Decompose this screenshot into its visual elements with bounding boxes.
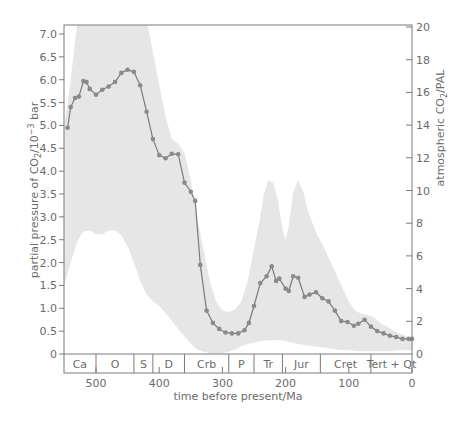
data-point <box>176 152 181 157</box>
data-point <box>204 308 209 313</box>
data-point <box>157 153 162 158</box>
x-tick-label: 100 <box>338 377 359 390</box>
data-point <box>217 327 222 332</box>
data-point <box>291 274 296 279</box>
geologic-period-band: CaOSDCrbPTrJurCretTert + Qt <box>73 354 417 373</box>
data-point <box>193 199 198 204</box>
left-tick-label: 5.5 <box>40 97 58 110</box>
data-point <box>138 83 143 88</box>
data-point <box>264 274 269 279</box>
period-label: S <box>140 358 147 371</box>
left-y-axis: 00.51.01.52.02.53.03.54.04.55.05.56.06.5… <box>40 28 65 361</box>
left-tick-label: 6.0 <box>40 74 58 87</box>
right-tick-label: 4 <box>416 283 423 296</box>
left-tick-label: 1.5 <box>40 279 58 292</box>
right-tick-label: 20 <box>416 21 430 34</box>
right-tick-label: 2 <box>416 315 423 328</box>
co2-chart: 00.51.01.52.02.53.03.54.04.55.05.56.06.5… <box>0 0 466 424</box>
left-tick-label: 0 <box>50 348 57 361</box>
data-point <box>362 317 367 322</box>
data-point <box>87 87 92 92</box>
left-tick-label: 5.0 <box>40 119 58 132</box>
data-point <box>94 93 99 98</box>
data-point <box>132 70 137 75</box>
left-tick-label: 1.0 <box>40 302 58 315</box>
data-point <box>100 88 105 93</box>
data-point <box>242 328 247 333</box>
left-tick-label: 3.5 <box>40 188 58 201</box>
period-label: Jur <box>293 358 309 371</box>
data-point <box>65 125 70 130</box>
data-point <box>394 335 399 340</box>
data-point <box>170 152 175 157</box>
period-label: D <box>164 358 172 371</box>
data-point <box>119 71 124 76</box>
data-point <box>211 321 216 326</box>
data-point <box>144 109 149 114</box>
data-point <box>182 180 187 185</box>
data-point <box>307 292 312 297</box>
right-tick-label: 14 <box>416 119 430 132</box>
data-point <box>68 105 73 110</box>
left-tick-label: 6.5 <box>40 51 58 64</box>
data-point <box>252 304 257 309</box>
right-tick-label: 12 <box>416 152 430 165</box>
data-point <box>320 296 325 301</box>
data-point <box>356 322 361 327</box>
x-tick-label: 0 <box>409 377 416 390</box>
right-axis-title: atmospheric CO2/PAL <box>434 69 449 187</box>
data-point <box>369 324 374 329</box>
data-point <box>106 84 111 89</box>
data-point <box>296 275 301 280</box>
period-label: Tert + Qt <box>366 358 417 371</box>
data-point <box>302 295 307 300</box>
data-point <box>400 337 405 342</box>
data-point <box>269 264 274 269</box>
data-point <box>163 156 168 161</box>
uncertainty-band <box>64 11 412 353</box>
right-y-axis: 02468101214161820 <box>406 21 430 361</box>
period-label: Ca <box>73 358 87 371</box>
right-tick-label: 18 <box>416 54 430 67</box>
period-label: O <box>111 358 120 371</box>
data-point <box>84 80 89 85</box>
data-point <box>381 331 386 336</box>
right-tick-label: 10 <box>416 185 430 198</box>
period-label: Crb <box>197 358 216 371</box>
x-tick-label: 400 <box>149 377 170 390</box>
data-point <box>339 319 344 324</box>
left-tick-label: 3.0 <box>40 211 58 224</box>
x-tick-label: 300 <box>212 377 233 390</box>
x-axis-title: time before present/Ma <box>174 390 303 403</box>
data-point <box>277 276 282 281</box>
right-tick-label: 8 <box>416 217 423 230</box>
data-point <box>345 320 350 325</box>
x-tick-label: 500 <box>86 377 107 390</box>
right-tick-label: 0 <box>416 348 423 361</box>
data-point <box>375 329 380 334</box>
left-tick-label: 2.0 <box>40 257 58 270</box>
left-tick-label: 0.5 <box>40 325 58 338</box>
data-point <box>352 323 357 328</box>
left-tick-label: 7.0 <box>40 28 58 41</box>
data-point <box>258 281 263 286</box>
left-tick-label: 4.0 <box>40 165 58 178</box>
period-label: Tr <box>262 358 273 371</box>
data-point <box>230 331 235 336</box>
data-point <box>113 80 118 85</box>
data-point <box>314 290 319 295</box>
data-point <box>333 308 338 313</box>
data-point <box>326 299 331 304</box>
period-label: P <box>238 358 245 371</box>
data-point <box>388 333 393 338</box>
data-point <box>236 331 241 336</box>
data-point <box>223 330 228 335</box>
data-point <box>189 189 194 194</box>
data-point <box>287 289 292 294</box>
data-point <box>77 94 82 99</box>
data-point <box>125 67 130 72</box>
data-point <box>247 321 252 326</box>
period-label: Cret <box>334 358 358 371</box>
data-point <box>151 137 156 142</box>
right-tick-label: 16 <box>416 86 430 99</box>
